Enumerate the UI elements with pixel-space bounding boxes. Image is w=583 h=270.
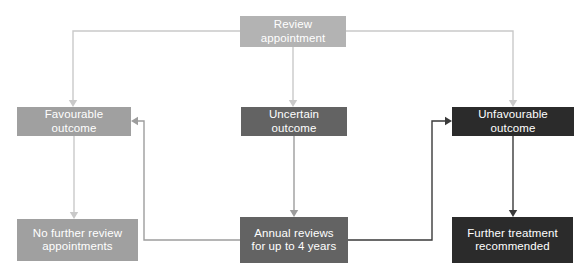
arrowhead-icon [290, 210, 298, 217]
arrowhead-icon [289, 100, 297, 107]
node-uncertain-outcome: Uncertain outcome [241, 107, 347, 136]
connector-review-to-favourable [69, 31, 240, 107]
arrowhead-icon [131, 117, 138, 125]
flowchart-diagram: Review appointmentFavourable outcomeUnce… [0, 0, 583, 270]
node-label: Favourable outcome [21, 108, 127, 135]
connector-uncertain-to-annual-reviews [290, 136, 298, 217]
connector-review-to-unfavourable [346, 31, 517, 107]
node-annual-reviews: Annual reviews for up to 4 years [240, 217, 348, 263]
connector-line [346, 31, 513, 101]
node-review-appointment: Review appointment [240, 16, 346, 47]
arrowhead-icon [509, 210, 517, 217]
connector-annual-reviews-to-favourable [131, 117, 240, 240]
arrowhead-icon [69, 100, 77, 107]
node-no-further-review-appointments: No further review appointments [17, 219, 138, 261]
connector-annual-reviews-to-unfavourable [348, 117, 452, 240]
connector-review-to-uncertain [289, 47, 297, 107]
node-label: Further treatment recommended [467, 227, 558, 254]
node-favourable-outcome: Favourable outcome [17, 107, 131, 136]
node-further-treatment-recommended: Further treatment recommended [452, 217, 573, 263]
connector-line [73, 31, 240, 101]
connector-favourable-to-no-further-review [70, 136, 78, 219]
node-label: Annual reviews for up to 4 years [252, 227, 337, 254]
node-label: Review appointment [244, 18, 342, 45]
arrowhead-icon [70, 212, 78, 219]
node-unfavourable-outcome: Unfavourable outcome [452, 107, 574, 136]
connector-unfavourable-to-further-treatment [509, 136, 517, 217]
node-label: Unfavourable outcome [456, 108, 570, 135]
arrowhead-icon [445, 117, 452, 125]
node-label: Uncertain outcome [245, 108, 343, 135]
connector-line [348, 121, 446, 240]
node-label: No further review appointments [33, 227, 122, 254]
arrowhead-icon [509, 100, 517, 107]
connector-line [137, 121, 240, 240]
